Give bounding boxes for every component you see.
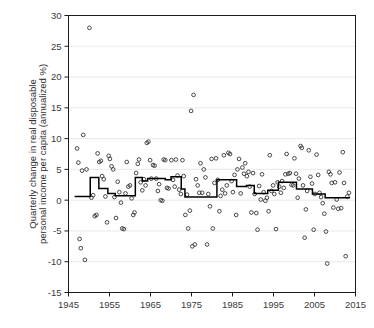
data-point (171, 178, 175, 182)
y-axis-tick-label: -10 (48, 256, 62, 267)
data-point (199, 161, 203, 165)
data-point (140, 188, 144, 192)
data-point (88, 26, 92, 30)
data-point (222, 153, 226, 157)
data-point (267, 209, 271, 213)
data-point (81, 133, 85, 137)
data-point (234, 213, 238, 217)
data-point (102, 177, 106, 181)
data-point (78, 237, 82, 241)
data-point (185, 193, 189, 197)
y-axis-tick-label: 25 (51, 41, 62, 52)
data-point (223, 192, 227, 196)
data-point (233, 173, 237, 177)
plot-frame (69, 16, 356, 293)
data-point (137, 158, 141, 162)
data-point (322, 212, 326, 216)
data-point (279, 191, 283, 195)
chart-figure: -15-10-505101520253019451955196519751985… (0, 0, 374, 328)
data-point (196, 184, 200, 188)
data-point (254, 211, 258, 215)
data-point (125, 160, 129, 164)
data-point (341, 150, 345, 154)
data-point (119, 201, 123, 205)
data-point (259, 198, 263, 202)
data-point (211, 227, 215, 231)
data-point (220, 188, 224, 192)
data-point (251, 171, 255, 175)
x-axis-tick-label: 1945 (58, 299, 79, 310)
data-point (285, 152, 289, 156)
data-point (214, 156, 218, 160)
data-point (271, 184, 275, 188)
data-point (83, 258, 87, 262)
y-axis-title: Quarterly change in real disposableperso… (27, 64, 48, 244)
data-point (268, 153, 272, 157)
data-point (310, 182, 314, 186)
data-point (315, 153, 319, 157)
data-point (342, 181, 346, 185)
data-point (237, 157, 241, 161)
y-axis-title-line-2: personal income per capita (annualized %… (37, 64, 48, 244)
data-point (301, 184, 305, 188)
data-point (124, 192, 128, 196)
y-axis-tick-label: 30 (51, 10, 62, 21)
data-point (307, 148, 311, 152)
data-point (225, 184, 229, 188)
data-point (179, 192, 183, 196)
data-point (319, 195, 323, 199)
data-point (156, 189, 160, 193)
data-point (116, 180, 120, 184)
y-axis-tick-label: 20 (51, 71, 62, 82)
data-point (324, 230, 328, 234)
data-point (177, 188, 181, 192)
plot-area (75, 26, 351, 265)
data-point (247, 170, 251, 174)
data-point (338, 171, 342, 175)
data-point (104, 195, 108, 199)
data-point (303, 236, 307, 240)
data-point (243, 161, 247, 165)
data-point (157, 182, 161, 186)
data-point (204, 176, 208, 180)
x-axis-tick-label: 1995 (263, 299, 284, 310)
data-point (294, 172, 298, 176)
data-point (347, 191, 351, 195)
data-point (136, 162, 140, 166)
data-point (184, 213, 188, 217)
data-point (144, 184, 148, 188)
data-point (239, 192, 243, 196)
data-point (344, 254, 348, 258)
data-point (293, 156, 297, 160)
data-point (130, 196, 134, 200)
data-point (250, 211, 254, 215)
x-axis: 19451955196519751985199520052015 (58, 293, 366, 310)
data-point (79, 246, 83, 250)
data-point (105, 220, 109, 224)
y-axis: -15-10-5051015202530 (48, 10, 69, 298)
data-point (332, 206, 336, 210)
data-point (245, 174, 249, 178)
data-point (213, 181, 217, 185)
data-point (272, 192, 276, 196)
data-point (240, 166, 244, 170)
data-point (206, 192, 210, 196)
y-axis-tick-label: 5 (56, 164, 61, 175)
data-point (114, 216, 118, 220)
y-axis-tick-label: -15 (48, 287, 62, 298)
x-axis-tick-label: 2005 (304, 299, 325, 310)
data-point (316, 173, 320, 177)
data-point (188, 209, 192, 213)
data-point (194, 177, 198, 181)
data-point (274, 227, 278, 231)
data-point (218, 209, 222, 213)
data-point (173, 185, 177, 189)
x-axis-tick-label: 2015 (345, 299, 366, 310)
data-point (186, 227, 190, 231)
data-point (297, 177, 301, 181)
x-axis-tick-label: 1955 (99, 299, 120, 310)
data-point (189, 109, 193, 113)
data-point (76, 161, 80, 165)
data-point (96, 152, 100, 156)
data-point (75, 147, 79, 151)
